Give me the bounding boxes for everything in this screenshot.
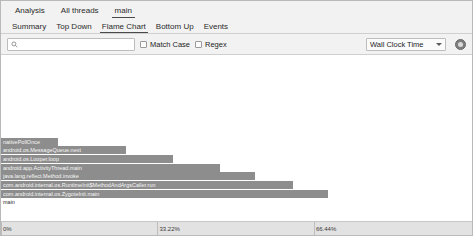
match-case-checkbox[interactable]: Match Case [140,40,190,49]
axis-tick: 66.44% [314,222,336,235]
tab-main[interactable]: main [107,1,140,19]
search-icon [11,41,18,48]
tab-analysis-label: Analysis [15,6,45,15]
flame-frame-bar[interactable]: java.lang.reflect.Method.invoke [1,172,255,180]
flame-frame-bar[interactable]: android.os.Looper.loop [1,155,173,163]
regex-label: Regex [205,40,227,49]
tab-events-label: Events [204,22,228,31]
sub-tab-strip: Summary Top Down Flame Chart Bottom Up E… [1,19,472,34]
tab-events[interactable]: Events [199,19,233,33]
flame-frame-label: android.os.Looper.loop [3,155,59,163]
flame-frame-stack: nativePollOnce android.os.MessageQueue.n… [1,138,472,208]
tab-all-threads[interactable]: All threads [53,1,107,19]
tab-main-label: main [115,6,132,15]
chart-empty-space [1,207,472,221]
tab-summary-label: Summary [12,22,46,31]
flame-row: nativePollOnce [1,138,472,146]
flame-row: main [1,198,472,206]
flame-frame-label: com.android.internal.os.RuntimeInit$Meth… [3,181,156,189]
tab-top-down-label: Top Down [56,22,92,31]
tab-bottom-up[interactable]: Bottom Up [151,19,199,33]
tab-analysis[interactable]: Analysis [7,1,53,19]
flame-frame-bar[interactable]: android.app.ActivityThread.main [1,164,220,172]
profiler-panel: Analysis All threads main Summary Top Do… [0,0,473,236]
flame-frame-label: android.os.MessageQueue.next [3,146,81,154]
axis-tick: 0% [1,222,12,235]
tab-bottom-up-label: Bottom Up [156,22,194,31]
chevron-down-icon [436,43,442,46]
help-icon[interactable] [455,39,466,50]
match-case-box-icon [140,41,147,48]
search-input[interactable] [21,41,131,48]
axis-tick: 33.22% [157,222,179,235]
tab-all-threads-label: All threads [61,6,99,15]
regex-checkbox[interactable]: Regex [195,40,227,49]
flame-frame-bar[interactable]: com.android.internal.os.ZygoteInit.main [1,190,328,198]
flame-frame-bar[interactable]: com.android.internal.os.RuntimeInit$Meth… [1,181,293,189]
flame-frame-bar[interactable]: nativePollOnce [1,138,58,146]
filter-toolbar: Match Case Regex Wall Clock Time [1,34,472,54]
clock-type-value: Wall Clock Time [370,40,434,49]
tab-top-down[interactable]: Top Down [51,19,97,33]
tab-summary[interactable]: Summary [7,19,51,33]
axis-tick-label: 0% [3,226,12,232]
percent-axis: 0% 33.22% 66.44% [1,221,472,235]
flame-chart-canvas[interactable]: nativePollOnce android.os.MessageQueue.n… [1,54,472,221]
regex-box-icon [195,41,202,48]
flame-frame-label: java.lang.reflect.Method.invoke [3,172,79,180]
flame-row: android.os.Looper.loop [1,155,472,163]
flame-row: android.app.ActivityThread.main [1,164,472,172]
clock-type-select[interactable]: Wall Clock Time [366,38,446,51]
flame-row: java.lang.reflect.Method.invoke [1,172,472,180]
flame-row: android.os.MessageQueue.next [1,146,472,154]
axis-tick-label: 33.22% [159,226,179,232]
tab-flame-chart[interactable]: Flame Chart [97,19,151,33]
flame-row: com.android.internal.os.ZygoteInit.main [1,190,472,198]
top-tab-strip: Analysis All threads main [1,1,472,19]
flame-frame-label: android.app.ActivityThread.main [3,164,82,172]
flame-frame-label: nativePollOnce [3,138,40,146]
help-icon-inner [458,42,463,47]
flame-frame-label: com.android.internal.os.ZygoteInit.main [3,190,99,198]
flame-row: com.android.internal.os.RuntimeInit$Meth… [1,181,472,189]
search-box[interactable] [7,38,135,51]
axis-tick-label: 66.44% [316,226,336,232]
flame-frame-label: main [3,198,15,206]
flame-frame-bar[interactable]: android.os.MessageQueue.next [1,146,126,154]
match-case-label: Match Case [150,40,190,49]
tab-flame-chart-label: Flame Chart [102,22,146,31]
flame-frame-bar-root[interactable]: main [1,198,472,206]
